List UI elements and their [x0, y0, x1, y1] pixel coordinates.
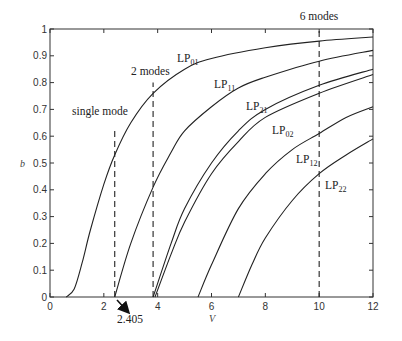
curve-label-lp22: LP22	[325, 179, 346, 194]
y-tick-label: 0	[41, 292, 47, 303]
curve-label-lp11: LP11	[214, 78, 235, 93]
x-tick-label: 12	[367, 301, 379, 312]
mode-boundary-label: 6 modes	[300, 10, 339, 22]
curve-label-lp21: LP21	[246, 100, 267, 115]
x-tick-label: 0	[47, 301, 53, 312]
curve-label-lp12: LP12	[296, 153, 317, 168]
curve-label-lp01: LP01	[177, 52, 198, 67]
y-tick-label: 0.9	[33, 50, 47, 61]
y-tick-label: 0.5	[33, 158, 47, 169]
y-tick-label: 0.7	[33, 104, 47, 115]
x-axis-title: V	[209, 313, 217, 324]
mode-curves	[66, 37, 373, 297]
curve-label-lp02: LP02	[272, 124, 293, 139]
x-tick-label: 6	[209, 301, 215, 312]
y-tick-label: 0.4	[33, 184, 47, 195]
y-axis-title: b	[20, 158, 25, 169]
y-axis-ticks: 00.10.20.30.40.50.60.70.80.91	[33, 24, 373, 303]
y-tick-label: 0.6	[33, 131, 47, 142]
y-tick-label: 0.8	[33, 77, 47, 88]
y-tick-label: 0.1	[33, 265, 47, 276]
y-tick-label: 1	[41, 24, 47, 35]
mode-cutoff-chart: 024681012 00.10.20.30.40.50.60.70.80.91 …	[0, 0, 402, 341]
curve-lp21	[153, 69, 373, 297]
y-tick-label: 0.3	[33, 211, 47, 222]
cutoff-arrow	[117, 300, 128, 312]
x-tick-label: 4	[155, 301, 161, 312]
y-tick-label: 0.2	[33, 238, 47, 249]
cutoff-value-label: 2.405	[117, 313, 143, 325]
x-tick-label: 2	[101, 301, 107, 312]
x-tick-label: 10	[314, 301, 326, 312]
mode-boundary-label: single mode	[72, 105, 128, 118]
mode-boundary-label: 2 modes	[131, 65, 170, 77]
x-tick-label: 8	[263, 301, 269, 312]
cutoff-annotation: 2.405	[117, 300, 143, 325]
